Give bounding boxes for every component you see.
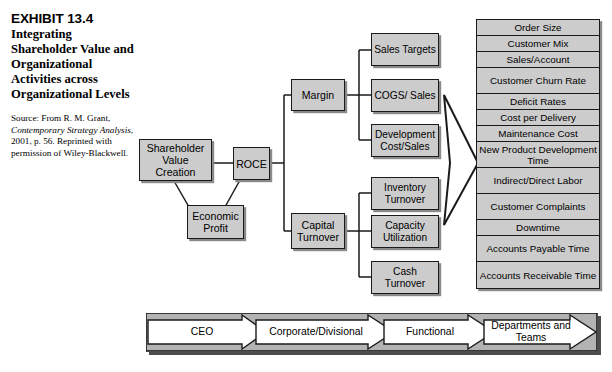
metric-row-downtime[interactable]: Downtime (477, 220, 599, 236)
metric-row-sales-account[interactable]: Sales/Account (477, 52, 599, 68)
band-shadow-right (597, 316, 601, 355)
metric-label: Maintenance Cost (498, 128, 578, 139)
metric-label: Indirect/Direct Labor (494, 175, 583, 186)
metric-row-accounts-payable-time[interactable]: Accounts Payable Time (477, 236, 599, 262)
metric-row-maintenance-cost[interactable]: Maintenance Cost (477, 126, 599, 142)
metric-label: Downtime (516, 222, 560, 233)
metric-row-accounts-receivable-time[interactable]: Accounts Receivable Time (477, 262, 599, 288)
metric-row-new-product-development-time[interactable]: New Product Development Time (477, 142, 599, 168)
band-arrow-corporate-divisional[interactable] (256, 315, 394, 349)
metric-row-customer-churn-rate[interactable]: Customer Churn Rate (477, 68, 599, 94)
metric-label: Customer Complaints (491, 201, 586, 212)
metric-row-order-size[interactable]: Order Size (477, 20, 599, 36)
metric-label: New Product Development Time (479, 144, 597, 166)
metric-label: Sales/Account (506, 54, 569, 65)
metric-label: Cost per Delivery (500, 112, 576, 123)
metric-row-customer-complaints[interactable]: Customer Complaints (477, 194, 599, 220)
metric-label: Customer Mix (508, 38, 569, 49)
metric-label: Accounts Payable Time (486, 243, 589, 254)
metric-list: Order SizeCustomer MixSales/AccountCusto… (476, 19, 600, 289)
level-band-graphic (146, 313, 601, 357)
metric-row-cost-per-delivery[interactable]: Cost per Delivery (477, 110, 599, 126)
metric-label: Accounts Receivable Time (480, 270, 596, 281)
big-arrow-shape (444, 95, 478, 225)
band-shadow (149, 351, 600, 355)
metric-label: Order Size (514, 22, 561, 33)
metric-row-customer-mix[interactable]: Customer Mix (477, 36, 599, 52)
metric-row-deficit-rates[interactable]: Deficit Rates (477, 94, 599, 110)
band-arrow-ceo[interactable] (148, 315, 266, 349)
level-band: CEO Corporate/Divisional Functional Depa… (146, 313, 601, 357)
metric-label: Deficit Rates (510, 96, 566, 107)
metric-row-indirect-direct-labor[interactable]: Indirect/Direct Labor (477, 168, 599, 194)
metric-label: Customer Churn Rate (490, 75, 586, 86)
